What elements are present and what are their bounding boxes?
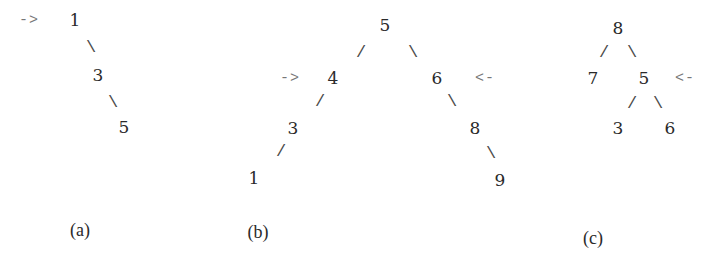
tree-node: 7: [588, 70, 599, 87]
tree-node: 3: [613, 120, 624, 137]
tree-edge: \: [108, 94, 118, 111]
tree-node: 1: [249, 170, 260, 187]
tree-node: 6: [432, 70, 443, 87]
tree-edge: /: [276, 143, 286, 160]
tree-node: 9: [495, 172, 506, 189]
tree-node: 1: [70, 12, 81, 29]
pointer-arrow-left-icon: <-: [675, 71, 695, 86]
tree-node: 3: [93, 67, 104, 84]
tree-node: 5: [639, 70, 650, 87]
tree-edge: \: [627, 44, 637, 61]
tree-node: 5: [119, 119, 130, 136]
tree-edge: \: [447, 93, 457, 110]
tree-node: 5: [380, 17, 391, 34]
tree-node: 6: [665, 120, 676, 137]
tree-edge: /: [627, 95, 637, 112]
pointer-arrow-left-icon: <-: [475, 71, 495, 86]
diagram-caption: (a): [70, 221, 90, 239]
diagram-caption: (b): [248, 223, 269, 241]
tree-diagrams-figure: -> 1 \ 3 \ 5 (a) 5 / \ -> 4 6 <- / \ 3 8…: [0, 0, 705, 259]
tree-edge: \: [408, 44, 418, 61]
diagram-caption: (c): [583, 229, 603, 247]
pointer-arrow-right-icon: ->: [19, 13, 39, 28]
tree-node: 8: [613, 20, 624, 37]
tree-edge: \: [486, 145, 496, 162]
pointer-arrow-right-icon: ->: [280, 71, 300, 86]
tree-edge: /: [356, 44, 366, 61]
tree-edge: \: [653, 95, 663, 112]
tree-node: 4: [328, 70, 339, 87]
tree-node: 8: [470, 120, 481, 137]
tree-node: 3: [288, 120, 299, 137]
tree-edge: \: [86, 39, 96, 56]
tree-edge: /: [315, 93, 325, 110]
tree-edge: /: [599, 44, 609, 61]
